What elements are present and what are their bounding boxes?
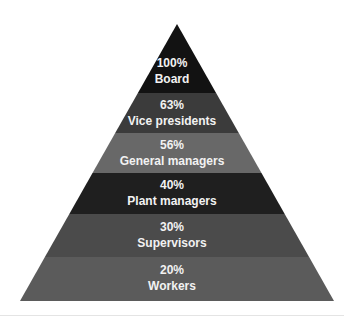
- divider-line: [0, 315, 344, 316]
- level-percent: 63%: [0, 97, 344, 113]
- level-percent: 20%: [0, 262, 344, 278]
- level-percent: 40%: [0, 177, 344, 193]
- level-label: Plant managers: [0, 193, 344, 209]
- level-label: Workers: [0, 278, 344, 294]
- level-label: General managers: [0, 153, 344, 169]
- level-label: Supervisors: [0, 235, 344, 251]
- level-percent: 30%: [0, 219, 344, 235]
- level-percent: 100%: [0, 55, 344, 71]
- level-label: Vice presidents: [0, 113, 344, 129]
- level-percent: 56%: [0, 137, 344, 153]
- level-label: Board: [0, 71, 344, 87]
